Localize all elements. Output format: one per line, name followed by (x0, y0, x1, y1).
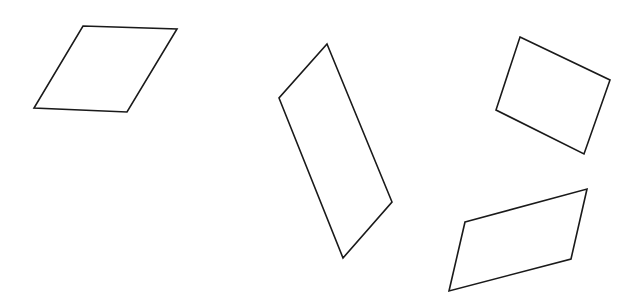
parallelogram-2 (279, 44, 392, 258)
parallelogram-4 (449, 189, 587, 291)
diagram-canvas (0, 0, 640, 304)
quadrilateral-3 (496, 37, 610, 154)
parallelogram-1 (34, 26, 177, 112)
